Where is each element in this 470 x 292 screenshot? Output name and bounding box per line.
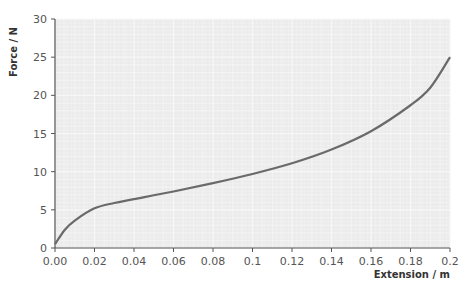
x-tick-label: 0.18 [398,255,423,268]
y-axis-title: Force / N [8,27,19,77]
x-tick-label: 0.06 [161,255,186,268]
x-tick-label: 0.1 [244,255,262,268]
x-axis-title: Extension / m [374,269,450,280]
y-tick-label: 25 [33,51,47,64]
x-tick-label: 0.2 [441,255,459,268]
x-tick-label: 0.12 [280,255,305,268]
y-tick-label: 15 [33,128,47,141]
y-tick-label: 10 [33,166,47,179]
force-extension-chart: 0.000.020.040.060.080.10.120.140.160.180… [0,0,470,292]
x-tick-label: 0.04 [122,255,147,268]
y-tick-label: 5 [40,204,47,217]
x-tick-label: 0.02 [82,255,107,268]
x-tick-label: 0.16 [359,255,384,268]
y-tick-label: 30 [33,13,47,26]
x-axis-ticks: 0.000.020.040.060.080.10.120.140.160.180… [43,248,459,268]
y-axis-ticks: 051015202530 [33,13,55,255]
y-tick-label: 20 [33,89,47,102]
major-grid [55,19,450,248]
x-tick-label: 0.08 [201,255,226,268]
x-tick-label: 0.00 [43,255,68,268]
x-tick-label: 0.14 [319,255,344,268]
y-tick-label: 0 [40,242,47,255]
